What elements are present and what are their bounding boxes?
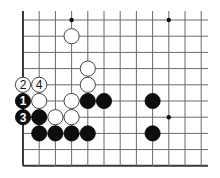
white-stone xyxy=(80,77,95,92)
black-stone xyxy=(32,110,47,125)
star-point xyxy=(167,18,171,22)
board-grid xyxy=(23,11,208,166)
black-stone xyxy=(48,126,63,141)
move-number-label: 1 xyxy=(20,94,27,108)
black-stone-disc xyxy=(32,110,47,125)
white-stone xyxy=(32,93,47,108)
white-stone-disc xyxy=(64,29,79,44)
star-point xyxy=(69,18,73,22)
black-stone-disc xyxy=(64,126,79,141)
go-board: 2413 xyxy=(0,0,220,178)
white-stone-disc xyxy=(32,93,47,108)
move-number-label: 4 xyxy=(36,78,43,92)
black-stone-1: 1 xyxy=(15,93,30,108)
black-stone xyxy=(64,126,79,141)
black-stone-disc xyxy=(145,126,160,141)
white-stone-2: 2 xyxy=(15,77,30,92)
star-point xyxy=(167,115,171,119)
black-stone-disc xyxy=(80,93,95,108)
white-stone-disc xyxy=(64,93,79,108)
white-stone-disc xyxy=(80,77,95,92)
white-stone xyxy=(80,61,95,76)
white-stone-disc xyxy=(48,110,63,125)
black-stone xyxy=(96,93,111,108)
black-stone-3: 3 xyxy=(15,110,30,125)
black-stone xyxy=(80,93,95,108)
white-stone xyxy=(64,110,79,125)
black-stone-disc xyxy=(80,126,95,141)
black-stone xyxy=(145,93,160,108)
white-stone xyxy=(64,93,79,108)
white-stone-4: 4 xyxy=(32,77,47,92)
black-stone xyxy=(32,126,47,141)
white-stone xyxy=(64,29,79,44)
move-number-label: 3 xyxy=(20,111,27,125)
black-stone xyxy=(80,126,95,141)
white-stone-disc xyxy=(64,110,79,125)
black-stone-disc xyxy=(145,93,160,108)
black-stone xyxy=(145,126,160,141)
black-stone-disc xyxy=(48,126,63,141)
black-stone-disc xyxy=(96,93,111,108)
move-number-label: 2 xyxy=(20,78,27,92)
white-stone xyxy=(48,110,63,125)
white-stone-disc xyxy=(80,61,95,76)
black-stone-disc xyxy=(32,126,47,141)
